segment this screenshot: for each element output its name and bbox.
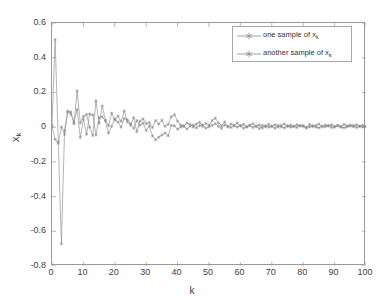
legend-item-one-sample[interactable]: one sample of xk bbox=[233, 27, 353, 45]
y-tick-label: 0.6 bbox=[0, 17, 46, 27]
x-tick-label: 20 bbox=[109, 268, 119, 277]
legend-label-another-sample-subscript: k bbox=[329, 52, 332, 58]
legend-marker-another-sample bbox=[236, 48, 262, 60]
legend-label-another-sample-base: another sample of x bbox=[263, 48, 329, 57]
figure-canvas: -0.8-0.6-0.4-0.200.20.40.6 0102030405060… bbox=[0, 0, 384, 307]
legend-item-another-sample[interactable]: another sample of xk bbox=[233, 45, 353, 63]
legend-label-one-sample: one sample of xk bbox=[263, 31, 319, 41]
legend-label-one-sample-subscript: k bbox=[316, 34, 319, 40]
x-tick-label: 80 bbox=[297, 268, 307, 277]
x-axis-label: k bbox=[0, 285, 384, 296]
y-tick-label: 0.2 bbox=[0, 86, 46, 96]
x-tick-label: 70 bbox=[266, 268, 276, 277]
y-axis-label-subscript: k bbox=[14, 133, 23, 137]
x-tick-label: 60 bbox=[234, 268, 244, 277]
x-tick-label: 50 bbox=[203, 268, 213, 277]
y-axis-label: xk bbox=[9, 117, 24, 157]
x-tick-label: 90 bbox=[329, 268, 339, 277]
y-tick-label: -0.6 bbox=[0, 225, 46, 235]
x-tick-label: 10 bbox=[77, 268, 87, 277]
x-tick-label: 40 bbox=[172, 268, 182, 277]
x-tick-label: 100 bbox=[357, 268, 372, 277]
x-tick-label: 30 bbox=[140, 268, 150, 277]
x-tick-label: 0 bbox=[48, 268, 53, 277]
legend-label-one-sample-base: one sample of x bbox=[263, 30, 316, 39]
y-axis-label-base: x bbox=[9, 137, 21, 143]
y-tick-label: -0.4 bbox=[0, 191, 46, 201]
legend-label-another-sample: another sample of xk bbox=[263, 49, 332, 59]
y-tick-label: 0.4 bbox=[0, 52, 46, 62]
y-tick-label: -0.2 bbox=[0, 156, 46, 166]
y-tick-label: -0.8 bbox=[0, 260, 46, 270]
legend-marker-one-sample bbox=[236, 30, 262, 42]
legend[interactable]: one sample of xk another sample of xk bbox=[232, 26, 352, 62]
